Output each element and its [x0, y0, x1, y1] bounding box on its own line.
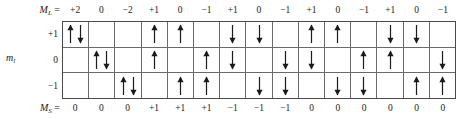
ms-value: 0 [88, 100, 114, 116]
microstate-cell [115, 73, 141, 98]
microstate-cell [273, 73, 299, 98]
ml-value: +1 [141, 2, 167, 18]
row-label: 0 [34, 47, 60, 73]
microstate-cell [377, 22, 403, 47]
spin-down-arrow-icon [360, 76, 367, 96]
ms-footer-row: MS = 000+1+1+1−1−1−1000000 [0, 100, 459, 116]
microstate-cell [115, 48, 141, 73]
microstate-cell [404, 22, 430, 47]
ms-footer-label: MS = [30, 100, 60, 116]
microstate-cell [168, 22, 194, 47]
ms-value: +1 [167, 100, 193, 116]
microstate-cell [246, 48, 272, 73]
ml-value: 0 [246, 2, 272, 18]
microstate-cell [220, 73, 246, 98]
ms-value: 0 [115, 100, 141, 116]
spin-up-arrow-icon [413, 76, 420, 96]
spin-down-arrow-icon [256, 76, 263, 96]
ms-value: 0 [403, 100, 429, 116]
microstate-cell [63, 22, 89, 47]
microstate-cell [351, 48, 377, 73]
ms-value: 0 [430, 100, 456, 116]
ms-value: +1 [141, 100, 167, 116]
microstate-cell [168, 73, 194, 98]
microstate-cell [430, 48, 455, 73]
ml-value: −1 [430, 2, 456, 18]
ml-value: +1 [298, 2, 324, 18]
spin-down-arrow-icon [103, 50, 110, 70]
spin-down-arrow-icon [77, 24, 84, 44]
spin-up-arrow-icon [387, 50, 394, 70]
microstate-cell [142, 48, 168, 73]
ml-value-list: +20−2+10−1+10−1+10−1+10−1 [62, 2, 456, 18]
microstate-cell [246, 22, 272, 47]
microstate-cell [194, 48, 220, 73]
spin-up-arrow-icon [151, 50, 158, 70]
microstate-cell [299, 48, 325, 73]
spin-down-arrow-icon [229, 50, 236, 70]
spin-up-arrow-icon [439, 76, 446, 96]
microstate-cell [115, 22, 141, 47]
microstate-cell [351, 22, 377, 47]
microstate-grid-row [63, 73, 455, 98]
ms-value: 0 [377, 100, 403, 116]
ms-value: −1 [246, 100, 272, 116]
spin-down-arrow-icon [282, 76, 289, 96]
microstate-cell [299, 73, 325, 98]
ml-axis-label: ml [6, 52, 15, 67]
microstate-grid [62, 21, 456, 99]
microstate-cell [404, 73, 430, 98]
spin-up-arrow-icon [360, 50, 367, 70]
microstate-cell [351, 73, 377, 98]
ms-equals: = [52, 102, 60, 113]
ml-header-row: ML = +20−2+10−1+10−1+10−1+10−1 [0, 2, 459, 18]
ml-symbol: M [40, 4, 48, 15]
ml-value: 0 [325, 2, 351, 18]
ml-header-label: ML = [30, 2, 60, 18]
spin-up-arrow-icon [177, 24, 184, 44]
ms-value: 0 [298, 100, 324, 116]
microstate-cell [273, 48, 299, 73]
microstate-grid-row [63, 22, 455, 48]
microstate-cell [194, 22, 220, 47]
ml-value: −1 [351, 2, 377, 18]
spin-up-arrow-icon [308, 24, 315, 44]
spin-up-arrow-icon [177, 76, 184, 96]
ml-axis-subscript: l [13, 57, 15, 65]
ms-value: +1 [193, 100, 219, 116]
ml-value: 0 [403, 2, 429, 18]
spin-down-arrow-icon [256, 24, 263, 44]
microstate-cell [89, 22, 115, 47]
microstate-cell [325, 22, 351, 47]
spin-up-arrow-icon [334, 24, 341, 44]
spin-up-arrow-icon [120, 76, 127, 96]
microstate-cell [377, 48, 403, 73]
spin-down-arrow-icon [130, 76, 137, 96]
microstate-cell [89, 48, 115, 73]
spin-up-arrow-icon [93, 50, 100, 70]
ms-value-list: 000+1+1+1−1−1−1000000 [62, 100, 456, 116]
ml-equals: = [52, 4, 60, 15]
microstate-cell [142, 73, 168, 98]
ml-value: −2 [115, 2, 141, 18]
ms-value: −1 [272, 100, 298, 116]
microstate-cell [168, 48, 194, 73]
microstate-cell [430, 73, 455, 98]
ml-value: +1 [220, 2, 246, 18]
microstate-cell [404, 48, 430, 73]
ml-value: 0 [88, 2, 114, 18]
microstate-cell [194, 73, 220, 98]
ml-value: 0 [167, 2, 193, 18]
spin-up-arrow-icon [203, 76, 210, 96]
spin-down-arrow-icon [387, 24, 394, 44]
ms-value: 0 [62, 100, 88, 116]
microstate-cell [299, 22, 325, 47]
row-label: +1 [34, 21, 60, 47]
microstate-cell [63, 48, 89, 73]
microstate-cell [63, 73, 89, 98]
spin-down-arrow-icon [308, 50, 315, 70]
microstate-cell [246, 73, 272, 98]
ms-value: 0 [325, 100, 351, 116]
spin-up-arrow-icon [67, 24, 74, 44]
microstate-cell [89, 73, 115, 98]
